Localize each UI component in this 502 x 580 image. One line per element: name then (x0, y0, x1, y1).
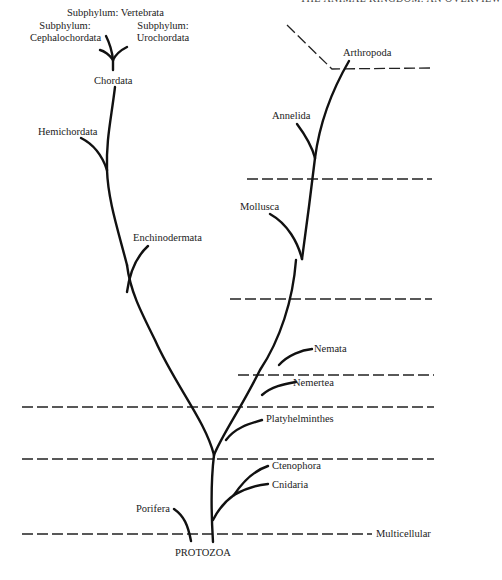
label-arthropoda: Arthropoda (343, 47, 391, 59)
running-head: THE ANIMAL KINGDOM: AN OVERVIEW (300, 0, 502, 4)
label-annelida: Annelida (272, 110, 311, 122)
branch-urochordata (113, 47, 127, 60)
stem-arthropoda-annelida (302, 158, 315, 259)
label-enchinodermata: Enchinodermata (133, 232, 202, 244)
label-urochordata-line1: Subphylum: (130, 20, 196, 32)
label-vertebrata: Subphylum: Vertebrata (67, 7, 164, 19)
branch-hemichordata (81, 138, 107, 170)
label-hemichordata: Hemichordata (38, 126, 97, 138)
branch-radiata (213, 495, 234, 520)
label-cephalochordata: Subphylum: Cephalochordata (30, 20, 100, 44)
label-chordata: Chordata (94, 75, 133, 87)
label-platyhelminthes: Platyhelminthes (266, 413, 334, 425)
branch-mollusca (270, 214, 302, 259)
label-protozoa: PROTOZOA (175, 547, 231, 559)
label-multicellular: Multicellular (376, 528, 431, 540)
branch-deuterostome-stem (127, 265, 214, 455)
label-cephalochordata-line2: Cephalochordata (30, 32, 100, 44)
label-cephalochordata-line1: Subphylum: (30, 20, 100, 32)
branch-protostome-stem (214, 260, 296, 455)
label-mollusca: Mollusca (240, 201, 279, 213)
stem-arthropoda (315, 61, 349, 158)
label-nemata: Nemata (314, 343, 347, 355)
trunk (212, 455, 214, 542)
label-urochordata-line2: Urochordata (130, 32, 196, 44)
label-urochordata: Subphylum: Urochordata (130, 20, 196, 44)
label-porifera: Porifera (136, 503, 170, 515)
branch-porifera (174, 509, 191, 541)
stem-chordata-hemichordata (107, 170, 127, 265)
branch-nemertea (262, 382, 296, 395)
branch-ctenophora (234, 466, 268, 495)
label-ctenophora: Ctenophora (272, 460, 321, 472)
branch-nemata (279, 349, 312, 365)
branch-annelida (297, 124, 315, 158)
label-cnidaria: Cnidaria (272, 479, 308, 491)
label-nemertea: Nemertea (293, 377, 334, 389)
stem-chordata (107, 87, 115, 170)
